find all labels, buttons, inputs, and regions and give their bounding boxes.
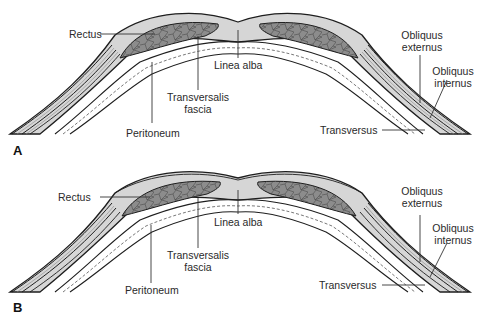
- label-peritoneum-a: Peritoneum: [126, 127, 180, 139]
- label-rectus-b: Rectus: [58, 191, 91, 203]
- label-peritoneum-b: Peritoneum: [125, 284, 179, 296]
- label-obliquus-internus-a: Obliquus internus: [428, 65, 478, 89]
- label-rectus-a: Rectus: [69, 28, 102, 40]
- label-obliquus-externus-b: Obliquus externus: [397, 185, 447, 209]
- label-linea-alba-a: Linea alba: [214, 59, 262, 71]
- label-obliquus-internus-b: Obliquus internus: [428, 222, 478, 246]
- label-obliquus-externus-a: Obliquus externus: [397, 29, 447, 53]
- label-transversalis-fascia-b: Transversalis fascia: [166, 249, 230, 273]
- panel-letter-b: B: [13, 300, 22, 315]
- label-transversus-b: Transversus: [319, 279, 376, 291]
- panel-letter-a: A: [13, 143, 22, 158]
- label-transversalis-fascia-a: Transversalis fascia: [166, 91, 230, 115]
- label-linea-alba-b: Linea alba: [214, 216, 262, 228]
- label-transversus-a: Transversus: [320, 124, 377, 136]
